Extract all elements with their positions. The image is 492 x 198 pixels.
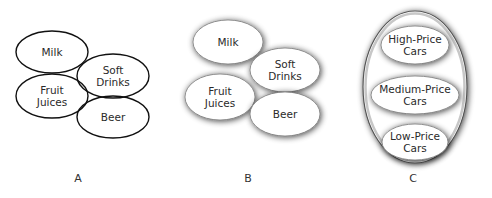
ellipse-label: Soft [275, 58, 296, 70]
category-node: SoftDrinks [250, 48, 320, 92]
ellipse-label: Cars [403, 142, 427, 154]
ellipse-label: Soft [103, 64, 124, 76]
panel-c: High-PriceCarsMedium-PriceCarsLow-PriceC… [363, 11, 467, 185]
ellipse-label: Fruit [40, 84, 63, 96]
ellipse-label: Juices [204, 97, 235, 109]
category-node: High-PriceCars [381, 26, 449, 64]
ellipse-label: High-Price [388, 33, 442, 45]
ellipse-label: Cars [403, 45, 427, 57]
category-node: Beer [77, 96, 149, 138]
ellipse-label: Drinks [268, 70, 302, 82]
panel-b: MilkSoftDrinksFruitJuicesBeerB [185, 20, 320, 185]
panel-caption: C [409, 172, 417, 185]
ellipse-label: Juices [36, 96, 67, 108]
ellipse-label: Medium-Price [379, 83, 450, 95]
panel-caption: A [74, 172, 82, 185]
category-node: FruitJuices [16, 74, 88, 118]
ellipse-label: Milk [42, 46, 64, 58]
category-node: Low-PriceCars [382, 124, 448, 160]
ellipse-label: Cars [403, 95, 427, 107]
panel-a: MilkSoftDrinksFruitJuicesBeerA [16, 31, 149, 185]
category-node: FruitJuices [185, 74, 255, 120]
ellipse-label: Low-Price [390, 130, 440, 142]
ellipse-label: Beer [273, 108, 298, 120]
panel-caption: B [244, 172, 252, 185]
category-node: Beer [250, 92, 320, 136]
category-node: Medium-PriceCars [371, 76, 459, 114]
ellipse-label: Drinks [96, 76, 130, 88]
category-node: Milk [193, 20, 263, 64]
category-diagram: MilkSoftDrinksFruitJuicesBeerA MilkSoftD… [0, 0, 492, 198]
ellipse-label: Fruit [208, 85, 231, 97]
category-node: Milk [16, 31, 88, 73]
ellipse-label: Milk [218, 36, 240, 48]
ellipse-label: Beer [101, 111, 126, 123]
